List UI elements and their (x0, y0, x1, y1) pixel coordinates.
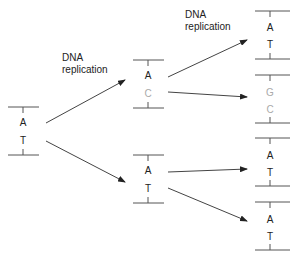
step1-label: DNA replication (62, 52, 108, 76)
parent-base-top: A (17, 118, 29, 128)
replication-diagram (0, 0, 295, 260)
gen1-top-molecule-frame (133, 60, 164, 108)
parent-molecule-frame (8, 107, 39, 155)
step1-label-line1: DNA (62, 52, 108, 64)
gen2-3-base-bottom: T (264, 168, 276, 178)
step2-label-line1: DNA (185, 9, 231, 21)
gen1-bottom-molecule-frame (133, 155, 164, 203)
gen2-3-base-top: A (264, 151, 276, 161)
gen2-4-base-bottom: T (264, 232, 276, 242)
gen1-top-base-top: A (142, 71, 154, 81)
parent-base-bottom: T (17, 136, 29, 146)
gen1-top-base-bottom: C (142, 89, 154, 99)
gen2-2-base-bottom: C (264, 105, 276, 115)
gen2-1-base-top: A (264, 23, 276, 33)
gen1-bottom-base-bottom: T (142, 184, 154, 194)
gen1-bottom-base-top: A (142, 166, 154, 176)
step1-label-line2: replication (62, 64, 108, 76)
step2-label-line2: replication (185, 21, 231, 33)
step2-label: DNA replication (185, 9, 231, 33)
gen2-1-base-bottom: T (264, 40, 276, 50)
gen2-2-base-top: G (264, 88, 276, 98)
gen2-4-base-top: A (264, 215, 276, 225)
